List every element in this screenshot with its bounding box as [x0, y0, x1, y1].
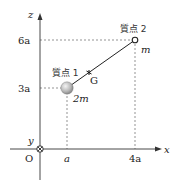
tick-4a: 4a: [129, 153, 141, 164]
origin-label: O: [25, 153, 33, 164]
particle-2-name: 質点 2: [120, 23, 147, 34]
particle-2-circle: [132, 37, 138, 43]
z-axis-arrow-icon: [38, 13, 43, 20]
particle-1-sphere: [61, 82, 73, 94]
tick-6a-text: 6a: [18, 35, 30, 46]
x-axis-arrow-icon: [155, 147, 162, 152]
com-diagram: z x y O 6a 3a a 4a 質点 1 2m 質点 2 m G: [0, 0, 181, 192]
z-axis-label: z: [27, 9, 34, 20]
tick-3a: 3a: [18, 83, 30, 94]
tick-3a-text: 3a: [18, 83, 30, 94]
tick-a: a: [64, 153, 70, 164]
y-into-page-icon: [37, 146, 43, 152]
y-axis-label: y: [27, 135, 34, 146]
particle-2-mass: m: [141, 44, 150, 55]
particle-1-name: 質点 1: [52, 67, 79, 78]
particle-1-mass: 2m: [72, 93, 89, 104]
x-axis-label: x: [164, 144, 170, 155]
tick-6a: 6a: [18, 35, 30, 46]
connecting-rod: [67, 40, 135, 88]
center-of-mass-label: G: [90, 75, 98, 86]
